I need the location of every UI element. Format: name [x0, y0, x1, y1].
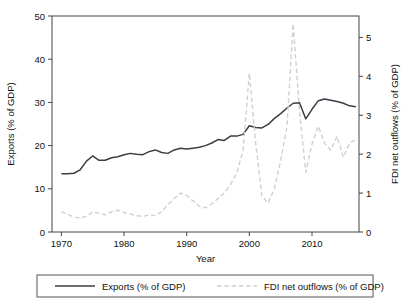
- y-left-tick-label: 20: [34, 140, 45, 151]
- legend-label-1: Exports (% of GDP): [102, 281, 185, 292]
- y-right-tick-label: 5: [366, 32, 371, 43]
- x-axis-label: Year: [196, 253, 215, 264]
- legend-label-2: FDI net outflows (% of GDP): [264, 281, 384, 292]
- y-axis-right-label: FDI net outflows (% of GDP): [389, 64, 400, 184]
- y-left-tick-label: 30: [34, 97, 45, 108]
- y-right-tick-label: 1: [366, 188, 371, 199]
- x-tick-label: 1990: [176, 238, 197, 249]
- y-right-tick-label: 2: [366, 149, 371, 160]
- y-left-tick-label: 10: [34, 183, 45, 194]
- y-left-tick-label: 50: [34, 11, 45, 22]
- x-tick-label: 2000: [239, 238, 260, 249]
- chart-figure: 19701980199020002010 01020304050 012345 …: [0, 0, 410, 305]
- y-right-tick-label: 3: [366, 110, 371, 121]
- line-chart: 19701980199020002010 01020304050 012345 …: [0, 0, 410, 305]
- x-tick-label: 1980: [113, 238, 134, 249]
- y-axis-left-label: Exports (% of GDP): [5, 82, 16, 165]
- x-tick-label: 2010: [301, 238, 322, 249]
- y-right-tick-label: 0: [366, 227, 371, 238]
- x-tick-label: 1970: [51, 238, 72, 249]
- y-left-tick-label: 0: [40, 227, 45, 238]
- y-left-tick-label: 40: [34, 54, 45, 65]
- y-right-tick-label: 4: [366, 71, 371, 82]
